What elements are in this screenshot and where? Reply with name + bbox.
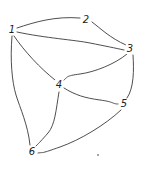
node-3: 3 [126, 44, 134, 54]
edge-1-6 [11, 36, 30, 145]
edge-1-4 [14, 36, 55, 80]
node-6: 6 [28, 147, 36, 157]
node-2: 2 [82, 15, 90, 25]
edge-5-6 [38, 110, 121, 153]
edge-1-2 [17, 18, 80, 28]
graph-edges [0, 0, 145, 169]
edge-3-4 [64, 54, 127, 80]
edge-3-5 [127, 55, 133, 98]
edge-4-6 [36, 92, 59, 146]
node-5: 5 [120, 99, 128, 109]
node-4: 4 [55, 80, 63, 90]
stray-mark [97, 154, 99, 156]
edge-4-5 [64, 88, 118, 104]
graph-diagram: 1 2 3 4 5 6 [0, 0, 145, 169]
node-1: 1 [8, 25, 16, 35]
edge-2-3 [92, 22, 126, 45]
